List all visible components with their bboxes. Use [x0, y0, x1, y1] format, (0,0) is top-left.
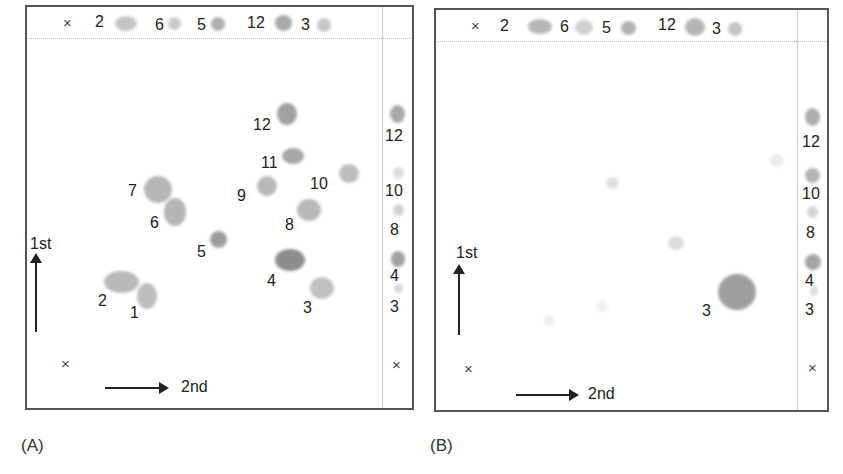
- spot-5: [210, 231, 227, 248]
- axis-first-arrow: [458, 272, 460, 335]
- top-strip-label-6: 6: [560, 19, 569, 35]
- side-strip-spot-12: [805, 108, 820, 126]
- top-strip-spot-12: [275, 15, 292, 31]
- side-strip-origin-mark: ×: [392, 357, 401, 372]
- top-strip-spot-5: [621, 21, 636, 35]
- top-strip-origin-mark: ×: [63, 15, 72, 30]
- spot-10: [339, 164, 359, 183]
- top-strip-spot-6: [168, 17, 181, 30]
- top-strip-label-6: 6: [155, 17, 164, 33]
- top-strip-label-3: 3: [301, 17, 310, 33]
- origin-mark: ×: [61, 356, 70, 371]
- top-strip-label-5: 5: [602, 20, 611, 36]
- side-strip-spot-10: [393, 167, 404, 179]
- panel-a: × 2 6 5 12 3 12 11 10 9 7 6 8 5 4 3 2 1 …: [25, 5, 414, 410]
- spot-label-10: 10: [310, 176, 328, 192]
- side-strip-divider: [797, 10, 798, 410]
- spot-label-1: 1: [130, 305, 139, 321]
- side-strip-spot-8: [807, 206, 818, 218]
- origin-mark: ×: [464, 361, 473, 376]
- spot-7: [144, 176, 172, 203]
- caption-b: (B): [430, 436, 453, 456]
- side-strip-label-12: 12: [802, 134, 820, 150]
- faint-spot: [668, 236, 684, 250]
- side-strip-origin-mark: ×: [808, 360, 817, 375]
- top-strip-divider: [27, 38, 412, 39]
- axis-first-label: 1st: [456, 245, 477, 261]
- spot-label-6: 6: [150, 215, 159, 231]
- side-strip-spot-10: [805, 168, 820, 183]
- top-strip-spot-2: [115, 16, 137, 31]
- side-strip-label-4: 4: [390, 268, 399, 284]
- side-strip-spot-12: [390, 105, 405, 123]
- faint-spot: [606, 177, 619, 189]
- caption-a: (A): [21, 436, 44, 456]
- spot-label-9: 9: [237, 188, 246, 204]
- top-strip-spot-3: [728, 22, 742, 36]
- side-strip-spot-3: [810, 286, 818, 296]
- side-strip-label-12: 12: [385, 128, 403, 144]
- spot-label-4: 4: [267, 273, 276, 289]
- spot-8: [297, 199, 321, 221]
- spot-6: [164, 198, 186, 226]
- top-strip-label-3: 3: [712, 21, 721, 37]
- spot-12: [277, 103, 297, 125]
- top-strip-spot-5: [211, 17, 225, 31]
- faint-spot: [596, 300, 608, 312]
- spot-1: [137, 283, 157, 309]
- top-strip-spot-2: [528, 19, 552, 34]
- top-strip-spot-6: [575, 20, 593, 35]
- axis-first-label: 1st: [30, 236, 51, 252]
- axis-second-arrow: [516, 394, 571, 396]
- side-strip-label-8: 8: [390, 222, 399, 238]
- top-strip-label-5: 5: [197, 17, 206, 33]
- side-strip-spot-4: [391, 251, 405, 267]
- side-strip-spot-3: [394, 284, 403, 293]
- spot-label-11: 11: [261, 155, 278, 171]
- panel-b: × 2 6 5 12 3 3 12 10 8 4 3 × 1st × 2nd: [434, 8, 829, 412]
- spot-9: [257, 176, 277, 196]
- top-strip-spot-12: [685, 18, 705, 36]
- top-strip-label-2: 2: [500, 18, 509, 34]
- spot-2: [104, 271, 139, 293]
- side-strip-label-10: 10: [802, 186, 820, 202]
- spot-11: [282, 148, 304, 164]
- spot-label-12: 12: [253, 117, 271, 133]
- spot-label-3: 3: [702, 303, 711, 319]
- spot-label-3: 3: [303, 300, 312, 316]
- faint-spot: [544, 316, 555, 326]
- axis-second-label: 2nd: [181, 379, 208, 395]
- side-strip-label-8: 8: [806, 225, 815, 241]
- side-strip-label-10: 10: [385, 183, 403, 199]
- spot-label-2: 2: [98, 293, 107, 309]
- spot-3: [718, 274, 756, 310]
- spot-label-8: 8: [285, 217, 294, 233]
- axis-second-label: 2nd: [588, 386, 615, 402]
- spot-label-7: 7: [128, 183, 137, 199]
- spot-4: [275, 249, 305, 271]
- top-strip-label-12: 12: [658, 17, 676, 33]
- top-strip-label-2: 2: [95, 14, 104, 30]
- top-strip-divider: [436, 41, 827, 42]
- top-strip-origin-mark: ×: [471, 18, 480, 33]
- side-strip-divider: [382, 7, 383, 408]
- side-strip-spot-4: [805, 254, 821, 270]
- side-strip-label-3: 3: [805, 302, 814, 318]
- axis-first-arrow: [35, 261, 37, 332]
- faint-spot: [770, 154, 784, 167]
- spot-label-5: 5: [197, 244, 206, 260]
- side-strip-label-3: 3: [390, 299, 399, 315]
- spot-3: [310, 277, 334, 299]
- top-strip-spot-3: [317, 18, 331, 32]
- side-strip-spot-8: [393, 204, 404, 216]
- axis-second-arrow: [105, 387, 161, 389]
- top-strip-label-12: 12: [247, 15, 265, 31]
